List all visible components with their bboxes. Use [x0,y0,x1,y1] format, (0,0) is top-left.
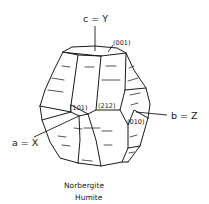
face-label-212: (212) [98,102,115,110]
c-axis: c = Y [83,13,108,51]
b-axis-label: b = Z [171,110,198,121]
face-label-001: (001) [113,39,130,47]
face-label-010: (010) [127,118,144,126]
face-label-101: (101) [70,104,87,112]
c-axis-label: c = Y [83,13,108,24]
caption: Norbergite Humite [64,181,104,202]
crystal-diagram: c = Y [0,0,209,204]
a-axis-label: a = X [12,137,39,148]
b-axis: b = Z [136,110,198,121]
caption-line-1: Norbergite [64,181,104,190]
a-axis: a = X [12,116,79,148]
crystal-outline [40,46,150,166]
striations [48,66,140,161]
caption-line-2: Humite [75,193,103,202]
